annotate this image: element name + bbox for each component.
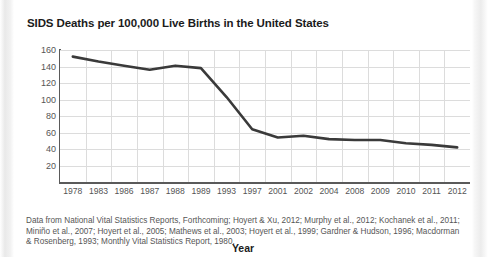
x-axis-tick-label: 1987	[140, 186, 159, 196]
chart-card: SIDS Deaths per 100,000 Live Births in t…	[14, 0, 472, 257]
x-axis-tick-label: 1989	[191, 186, 210, 196]
x-axis-tick-label: 2002	[294, 186, 313, 196]
x-axis-tick-label: 1978	[63, 186, 82, 196]
plot-area	[60, 50, 470, 182]
y-axis-tick-label: 140	[22, 62, 56, 72]
y-axis-tick-labels: 16014012010080604020	[14, 50, 56, 182]
x-axis-tick-label: 1988	[166, 186, 185, 196]
x-axis-tick-label: 1983	[89, 186, 108, 196]
y-axis-tick-label: 20	[22, 161, 56, 171]
chart-source-caption: Data from National Vital Statistics Repo…	[26, 216, 464, 248]
y-axis-tick-label: 40	[22, 144, 56, 154]
x-axis-tick-label: 2009	[371, 186, 390, 196]
x-axis-tick-label: 1993	[217, 186, 236, 196]
x-axis-tick-label: 1986	[115, 186, 134, 196]
x-axis-tick-label: 2010	[396, 186, 415, 196]
x-axis-tick-label: 2012	[448, 186, 467, 196]
page-left-gutter	[0, 0, 14, 257]
x-axis-tick-labels: 1978198319861987198819891993199720012002…	[60, 186, 470, 202]
y-axis-tick-label: 80	[22, 111, 56, 121]
y-axis-tick-label: 60	[22, 128, 56, 138]
x-axis-tick-label: 2008	[345, 186, 364, 196]
chart-plot-wrapper: 16014012010080604020 1978198319861987198…	[14, 44, 472, 194]
x-axis-tick-label: 1997	[243, 186, 262, 196]
x-axis-tick-label: 2011	[422, 186, 440, 196]
y-axis-tick-label: 120	[22, 78, 56, 88]
screenshot-page: SIDS Deaths per 100,000 Live Births in t…	[0, 0, 488, 257]
x-axis-line	[59, 182, 470, 184]
x-axis-tick-label: 2001	[268, 186, 287, 196]
y-axis-tick-label: 160	[22, 45, 56, 55]
page-title: SIDS Deaths per 100,000 Live Births in t…	[27, 17, 329, 29]
line-series-svg	[60, 50, 470, 182]
y-axis-tick-label: 100	[22, 95, 56, 105]
x-axis-tick-label: 2004	[320, 186, 339, 196]
page-right-gutter	[472, 0, 488, 257]
line-series-path	[73, 57, 457, 148]
